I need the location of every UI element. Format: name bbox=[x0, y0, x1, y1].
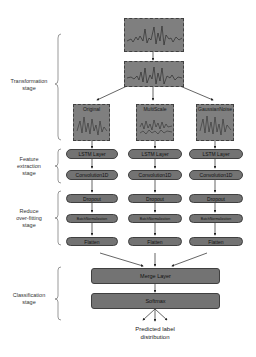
branch-original-box: Original bbox=[73, 104, 110, 141]
branch-gaussiannoise-box: GaussianNoise bbox=[196, 104, 234, 141]
flatten-original: Flatten bbox=[66, 237, 118, 246]
flatten-gaussiannoise: Flatten bbox=[189, 237, 243, 246]
lstm-layer-gaussiannoise: LSTM Layer bbox=[189, 149, 243, 159]
merge-layer: Merge Layer bbox=[91, 268, 220, 284]
stage-label-feature-extraction: Feature extraction stage bbox=[4, 156, 54, 177]
dropout-multiscale: Dropout bbox=[128, 194, 182, 203]
dropout-original: Dropout bbox=[66, 194, 118, 203]
stage-label-classification: Classification stage bbox=[4, 292, 54, 306]
dropout-gaussiannoise: Dropout bbox=[189, 194, 243, 203]
output-label-line: Predicted label bbox=[115, 325, 195, 333]
output-label: Predicted label distribution bbox=[115, 325, 195, 341]
waveform-icon bbox=[125, 19, 185, 53]
softmax-layer: Softmax bbox=[91, 293, 220, 309]
stage-label-transformation: Transformation stage bbox=[4, 78, 54, 92]
stage-label-line: stage bbox=[4, 85, 54, 92]
waveform-icon bbox=[197, 105, 235, 142]
batchnorm-original: BatchNormalization bbox=[66, 214, 118, 223]
lstm-layer-original: LSTM Layer bbox=[66, 149, 118, 159]
stage-label-line: extraction bbox=[4, 163, 54, 170]
waveform-icon bbox=[125, 62, 185, 88]
stage-label-line: stage bbox=[4, 170, 54, 177]
stage-label-line: Reduce bbox=[4, 208, 54, 215]
conv1d-gaussiannoise: Convolution1D bbox=[189, 170, 243, 180]
stage-label-line: Transformation bbox=[4, 78, 54, 85]
stage-label-line: Feature bbox=[4, 156, 54, 163]
batchnorm-gaussiannoise: BatchNormalization bbox=[189, 214, 243, 223]
flatten-multiscale: Flatten bbox=[128, 237, 182, 246]
waveform-icon bbox=[74, 105, 111, 142]
output-label-line: distribution bbox=[115, 333, 195, 341]
batchnorm-multiscale: BatchNormalization bbox=[128, 214, 182, 223]
transformed-signal-box bbox=[124, 61, 184, 87]
conv1d-multiscale: Convolution1D bbox=[128, 170, 182, 180]
conv1d-original: Convolution1D bbox=[66, 170, 118, 180]
branch-multiscale-box: MultiScale bbox=[136, 104, 174, 141]
stage-label-line: Classification bbox=[4, 292, 54, 299]
stage-label-reduce-overfitting: Reduce over-fitting stage bbox=[4, 208, 54, 229]
stage-label-line: stage bbox=[4, 299, 54, 306]
waveform-icon bbox=[137, 105, 175, 142]
stage-label-line: stage bbox=[4, 222, 54, 229]
stage-label-line: over-fitting bbox=[4, 215, 54, 222]
lstm-layer-multiscale: LSTM Layer bbox=[128, 149, 182, 159]
raw-signal-box bbox=[124, 18, 184, 52]
